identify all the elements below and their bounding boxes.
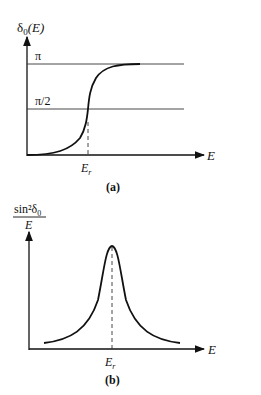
phase-shift-curve bbox=[27, 64, 140, 155]
panel-b-xlabel: E bbox=[207, 342, 216, 357]
panel-b-ylabel-numerator: sin²δ0 bbox=[14, 202, 41, 218]
panel-b-er-label: Er bbox=[104, 355, 116, 371]
pi-label: π bbox=[35, 49, 41, 63]
figure: δ0(E) E π π/2 Er (a) sin²δ0 E E Er (b) bbox=[0, 0, 261, 395]
resonance-peak-curve bbox=[44, 246, 180, 343]
panel-a-ylabel: δ0(E) bbox=[17, 20, 44, 37]
half-pi-label: π/2 bbox=[35, 94, 50, 108]
panel-b-ylabel-denominator: E bbox=[24, 218, 33, 232]
panel-a-xlabel: E bbox=[206, 148, 215, 163]
panel-a: δ0(E) E π π/2 Er (a) bbox=[17, 20, 215, 194]
panel-b: sin²δ0 E E Er (b) bbox=[13, 202, 216, 387]
panel-b-caption: (b) bbox=[105, 373, 120, 387]
panel-a-er-label: Er bbox=[80, 161, 92, 177]
panel-a-caption: (a) bbox=[106, 180, 120, 194]
